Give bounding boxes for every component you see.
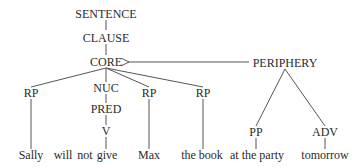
node-rp-2: RP <box>142 87 157 99</box>
node-clause: CLAUSE <box>83 32 130 44</box>
word-give: give <box>97 149 118 161</box>
node-adv: ADV <box>312 126 338 138</box>
node-rp-1: RP <box>24 87 39 99</box>
node-pred: PRED <box>91 103 122 115</box>
word-max: Max <box>138 149 160 161</box>
node-periphery: PERIPHERY <box>253 57 318 69</box>
word-not: not <box>77 149 92 161</box>
tree-edges <box>0 0 358 167</box>
word-tomorrow: tomorrow <box>301 149 348 161</box>
syntax-tree-diagram: SENTENCE CLAUSE CORE PERIPHERY RP NUC RP… <box>0 0 358 167</box>
edge-periphery-pp <box>256 69 285 126</box>
word-sally: Sally <box>19 149 44 161</box>
edge-periphery-adv <box>285 69 325 126</box>
node-core: CORE <box>90 56 122 68</box>
node-pp: PP <box>249 126 262 138</box>
node-nuc: NUC <box>93 82 118 94</box>
word-at-the-party: at the party <box>230 149 284 161</box>
edge-core-rp3 <box>106 68 203 87</box>
word-will: will <box>54 149 73 161</box>
node-v: V <box>102 125 111 137</box>
node-sentence: SENTENCE <box>75 8 136 20</box>
word-the-book: the book <box>181 149 223 161</box>
node-rp-3: RP <box>196 87 211 99</box>
